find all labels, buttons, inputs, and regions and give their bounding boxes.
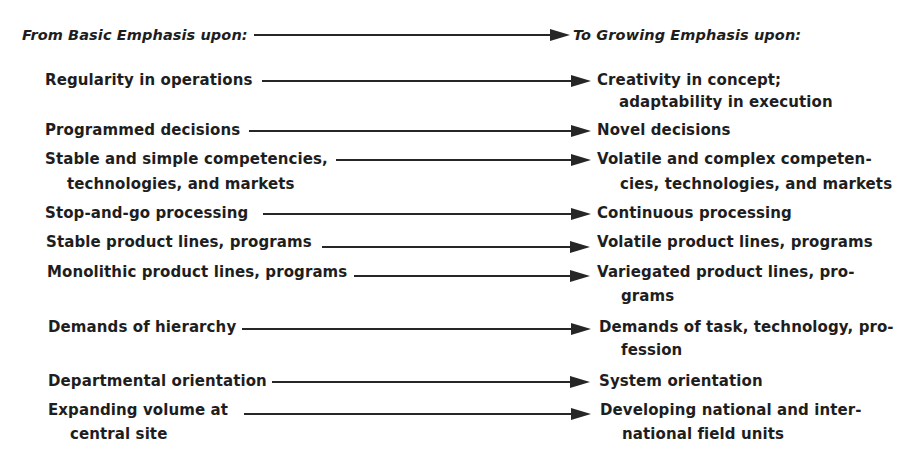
from-item-continuation: technologies, and markets bbox=[67, 175, 295, 193]
arrowhead-icon bbox=[571, 208, 591, 220]
from-item: Regularity in operations bbox=[45, 71, 253, 89]
arrowhead-icon bbox=[571, 323, 591, 335]
from-item: Programmed decisions bbox=[45, 121, 240, 139]
from-item: Departmental orientation bbox=[48, 372, 267, 390]
arrow bbox=[354, 275, 586, 277]
to-item: Volatile and complex competen- bbox=[597, 150, 872, 168]
arrowhead-icon bbox=[571, 154, 591, 166]
from-item: Stable and simple competencies, bbox=[45, 150, 328, 168]
to-item-continuation: cies, technologies, and markets bbox=[620, 175, 892, 193]
arrow bbox=[262, 80, 587, 82]
to-item: Variegated product lines, pro- bbox=[597, 263, 855, 281]
arrowhead-icon bbox=[571, 408, 591, 420]
arrowhead-icon bbox=[570, 241, 590, 253]
to-item-continuation: national field units bbox=[622, 425, 784, 443]
to-item-continuation: fession bbox=[621, 341, 682, 359]
to-item: Volatile product lines, programs bbox=[597, 233, 873, 251]
from-item: Demands of hierarchy bbox=[48, 318, 236, 336]
from-item: Expanding volume at bbox=[48, 401, 228, 419]
header-arrow bbox=[254, 34, 566, 36]
arrowhead-icon bbox=[570, 270, 590, 282]
arrow bbox=[272, 381, 586, 383]
arrowhead-icon bbox=[550, 29, 570, 41]
from-item-continuation: central site bbox=[70, 425, 167, 443]
to-item: Novel decisions bbox=[597, 121, 731, 139]
arrow bbox=[242, 328, 587, 330]
arrow bbox=[263, 213, 587, 215]
arrow bbox=[322, 246, 586, 248]
from-item: Stable product lines, programs bbox=[46, 233, 312, 251]
arrow bbox=[244, 413, 587, 415]
to-header: To Growing Emphasis upon: bbox=[573, 26, 801, 44]
from-item: Monolithic product lines, programs bbox=[47, 263, 347, 281]
diagram-page: From Basic Emphasis upon: To Growing Emp… bbox=[0, 0, 914, 465]
to-item: System orientation bbox=[599, 372, 763, 390]
to-item: Developing national and inter- bbox=[600, 401, 862, 419]
from-item: Stop-and-go processing bbox=[45, 204, 248, 222]
arrow bbox=[336, 159, 587, 161]
to-item: Demands of task, technology, pro- bbox=[599, 318, 894, 336]
to-item-continuation: grams bbox=[621, 287, 674, 305]
arrowhead-icon bbox=[571, 75, 591, 87]
from-header: From Basic Emphasis upon: bbox=[22, 26, 248, 44]
arrowhead-icon bbox=[571, 125, 591, 137]
to-item: Continuous processing bbox=[597, 204, 792, 222]
arrowhead-icon bbox=[570, 376, 590, 388]
to-item: Creativity in concept; bbox=[597, 71, 781, 89]
to-item-continuation: adaptability in execution bbox=[619, 93, 833, 111]
arrow bbox=[249, 130, 587, 132]
